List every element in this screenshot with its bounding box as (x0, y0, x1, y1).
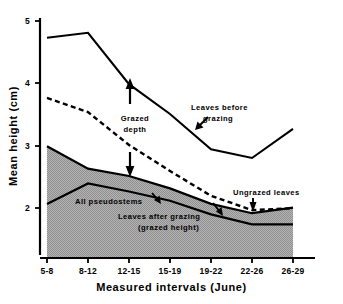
series-leaves-before-grazing (47, 33, 293, 158)
annotation-leaves-before-grazing-line1: Leaves before (191, 103, 248, 114)
annotation-leaves-after-grazing-line2: (grazed height) (138, 223, 199, 234)
y-tick-label-3: 3 (12, 141, 30, 151)
x-tick-label-26-29: 26-29 (273, 266, 313, 276)
annotation-ungrazed-leaves: Ungrazed leaves (233, 188, 300, 199)
x-tick-label-5-8: 5-8 (27, 266, 67, 276)
y-tick-label-2: 2 (12, 203, 30, 213)
annotation-grazed-depth-line2: depth (112, 125, 158, 136)
grazed-depth-arrow-down (126, 152, 135, 177)
annotation-leaves-after-grazing-line1: Leaves after grazing (118, 212, 200, 223)
chart-plot-area (0, 0, 343, 304)
x-tick-label-22-26: 22-26 (232, 266, 272, 276)
chart-figure: Mean height (cm) Measured intervals (Jun… (0, 0, 343, 304)
annotation-all-pseudostems: All pseudostems (75, 197, 143, 208)
y-tick-label-5: 5 (12, 16, 30, 26)
x-tick-label-15-19: 15-19 (150, 266, 190, 276)
x-axis-title: Measured intervals (June) (0, 281, 343, 293)
annotation-leaves-before-grazing-line2: grazing (203, 114, 233, 125)
y-axis-title: Mean height (cm) (7, 76, 19, 196)
x-tick-label-12-15: 12-15 (109, 266, 149, 276)
y-tick-label-4: 4 (12, 78, 30, 88)
annotation-grazed-depth-line1: Grazed (112, 114, 158, 125)
x-tick-label-8-12: 8-12 (68, 266, 108, 276)
x-tick-label-19-22: 19-22 (191, 266, 231, 276)
